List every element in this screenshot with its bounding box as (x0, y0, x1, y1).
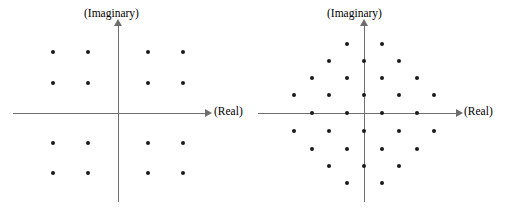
rectangular-constellation-panel: (Real) (Imaginary) (0, 0, 257, 217)
imaginary-axis-arrowhead-left (114, 19, 122, 26)
constellation-point (327, 129, 331, 133)
constellation-point (86, 171, 90, 175)
imaginary-axis-line-left (118, 26, 119, 202)
constellation-point (380, 42, 384, 46)
constellation-point (146, 50, 150, 54)
constellation-point (397, 129, 401, 133)
imaginary-axis-line-right (364, 26, 365, 202)
constellation-point (397, 93, 401, 97)
real-axis-label-left: (Real) (214, 106, 243, 118)
constellation-point (310, 147, 314, 151)
constellation-point (345, 76, 349, 80)
constellation-point (380, 111, 384, 115)
constellation-point (380, 76, 384, 80)
real-axis-arrowhead-right (456, 109, 463, 117)
constellation-point (86, 81, 90, 85)
constellation-point (397, 164, 401, 168)
constellation-point (181, 171, 185, 175)
constellation-point (380, 147, 384, 151)
imaginary-axis-label-right: (Imaginary) (327, 8, 382, 20)
constellation-point (432, 93, 436, 97)
constellation-point (327, 164, 331, 168)
constellation-point (310, 111, 314, 115)
constellation-point (397, 59, 401, 63)
constellation-point (51, 81, 55, 85)
constellation-point (432, 129, 436, 133)
constellation-point (345, 42, 349, 46)
constellation-point (181, 141, 185, 145)
constellation-point (345, 111, 349, 115)
constellation-point (181, 81, 185, 85)
real-axis-line-left (13, 113, 205, 114)
constellation-point (86, 141, 90, 145)
constellation-point (51, 50, 55, 54)
constellation-point (362, 93, 366, 97)
constellation-point (51, 171, 55, 175)
constellation-point (362, 164, 366, 168)
real-axis-arrowhead-left (205, 109, 212, 117)
constellation-point (51, 141, 55, 145)
constellation-diagram-figure: (Real) (Imaginary) (Real) (Imaginary) (0, 0, 515, 217)
constellation-point (327, 59, 331, 63)
constellation-point (181, 50, 185, 54)
constellation-point (415, 147, 419, 151)
constellation-point (345, 147, 349, 151)
real-axis-line-right (258, 113, 456, 114)
constellation-point (146, 141, 150, 145)
constellation-point (380, 181, 384, 185)
constellation-point (146, 171, 150, 175)
real-axis-label-right: (Real) (464, 106, 493, 118)
constellation-point (415, 76, 419, 80)
constellation-point (362, 129, 366, 133)
imaginary-axis-label-left: (Imaginary) (84, 8, 139, 20)
hexagonal-constellation-panel: (Real) (Imaginary) (257, 0, 515, 217)
constellation-point (86, 50, 90, 54)
constellation-point (146, 81, 150, 85)
constellation-point (327, 93, 331, 97)
constellation-point (292, 129, 296, 133)
constellation-point (415, 111, 419, 115)
constellation-point (292, 93, 296, 97)
constellation-point (345, 181, 349, 185)
constellation-point (310, 76, 314, 80)
constellation-point (362, 59, 366, 63)
imaginary-axis-arrowhead-right (360, 19, 368, 26)
